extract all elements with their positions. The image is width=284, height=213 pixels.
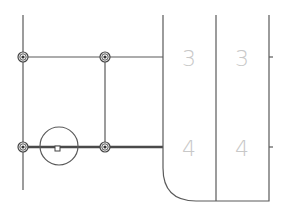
cell-label: 3 (235, 46, 249, 71)
node-icon[interactable] (18, 52, 28, 62)
node-icon[interactable] (100, 142, 110, 152)
node-icon[interactable] (18, 142, 28, 152)
cad-drawing-canvas: 3 3 4 4 (0, 0, 284, 213)
cell-label: 3 (182, 46, 196, 71)
cell-label: 4 (182, 136, 196, 161)
grip-square-icon[interactable] (55, 146, 60, 151)
node-icon[interactable] (100, 52, 110, 62)
cell-label: 4 (235, 136, 249, 161)
